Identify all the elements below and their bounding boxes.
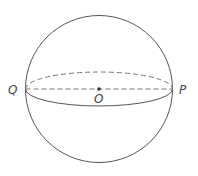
sphere-diagram: Q P O — [0, 0, 198, 176]
equator-back-arc — [26, 72, 173, 89]
label-q: Q — [8, 83, 17, 97]
label-p: P — [179, 83, 187, 97]
center-point-o — [97, 87, 101, 91]
label-o: O — [94, 92, 103, 106]
